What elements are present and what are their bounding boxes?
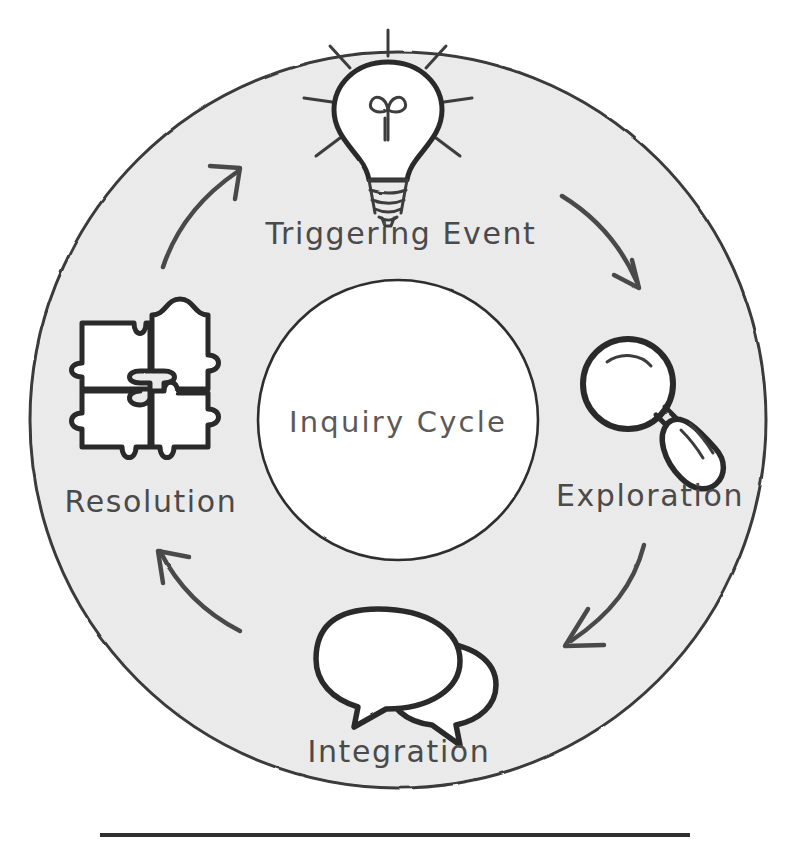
stage-label-triggering-event: Triggering Event xyxy=(265,216,537,251)
stage-label-integration: Integration xyxy=(308,734,491,769)
inquiry-cycle-diagram: Inquiry Cycle xyxy=(0,0,794,847)
center-label: Inquiry Cycle xyxy=(289,405,507,439)
stage-label-exploration: Exploration xyxy=(556,478,744,513)
stage-label-resolution: Resolution xyxy=(65,484,238,519)
